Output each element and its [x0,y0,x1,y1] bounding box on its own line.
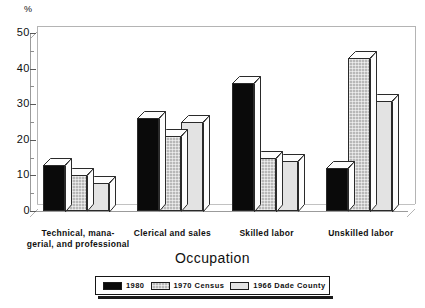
y-tick-minor [30,86,34,87]
y-tick-major [30,69,36,70]
x-axis-title: Occupation [0,250,425,266]
legend-label: 1970 Census [174,281,225,290]
bar-front-face [232,83,254,211]
floor-right-edge [406,204,417,214]
bar-top-face [232,76,254,83]
y-tick-minor [30,51,34,52]
legend-item[interactable]: 1970 Census [151,281,225,290]
legend-swatch-light-gray [230,282,249,290]
legend-item[interactable]: 1966 Dade County [230,281,325,290]
x-category-label: Unskilled labor [300,228,422,239]
plot-right-edge [415,26,416,204]
bar-side-face [298,154,305,211]
bar-side-face [109,176,116,211]
plot-area: % 50403020100 Technical, mana-gerial, an… [0,0,425,308]
bar-front-face [137,118,159,211]
legend-swatch-gray-hatched [151,282,170,290]
bar-top-face [43,158,65,165]
legend-label: 1966 Dade County [253,281,325,290]
bar-side-face [181,129,188,211]
bar-chart: % 50403020100 Technical, mana-gerial, an… [0,0,425,308]
bar-1980 [326,168,348,211]
bar-top-face [326,161,348,168]
y-tick-major [30,140,36,141]
y-axis-back-line [37,26,38,204]
y-tick-major [30,211,36,212]
y-tick-minor [30,122,34,123]
bar-side-face [254,76,261,211]
bar-top-face [181,115,203,122]
bar-side-face [370,51,377,211]
bar-front-face [326,168,348,211]
legend-swatch-black-solid [103,282,122,290]
bar-front-face [43,165,65,211]
bar-1980 [43,165,65,211]
legend-label: 1980 [126,281,145,290]
y-tick-major [30,175,36,176]
y-tick-major [30,33,36,34]
y-tick-major [30,104,36,105]
y-tick-minor [30,193,34,194]
bar-top-face [137,111,159,118]
bar-top-face [348,51,370,58]
legend-shadow [98,296,333,299]
x-category-label-line: gerial, and professional [17,239,139,250]
bar-side-face [348,161,355,211]
y-tick-label: 10 [4,169,30,180]
plot-top-edge [37,26,415,27]
bar-1980 [232,83,254,211]
y-tick-label: 40 [4,63,30,74]
bar-side-face [87,168,94,211]
bar-side-face [276,151,283,211]
bar-side-face [203,115,210,211]
y-tick-minor [30,158,34,159]
x-category-label-line: Unskilled labor [300,228,422,239]
y-tick-label: 0 [4,205,30,216]
y-tick-label: 30 [4,98,30,109]
y-tick-label: 50 [4,27,30,38]
bar-side-face [159,111,166,211]
bar-side-face [392,94,399,211]
y-tick-label: 20 [4,134,30,145]
legend-item[interactable]: 1980 [103,281,145,290]
bar-side-face [65,158,72,211]
legend: 19801970 Census1966 Dade County [95,276,330,295]
bar-1980 [137,118,159,211]
